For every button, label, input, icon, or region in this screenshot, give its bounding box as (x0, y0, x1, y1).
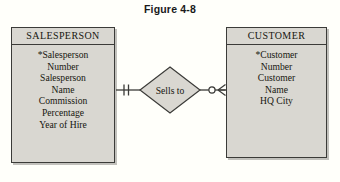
diagram-canvas: Figure 4-8 SALESPERSON *Salesperson Numb… (0, 0, 340, 182)
cardinality-many-crows-foot-icon (218, 85, 226, 96)
relationship-sells-to[interactable]: Sells to (139, 66, 201, 114)
diamond-shape-icon (139, 66, 201, 114)
cardinality-zero-circle-icon (209, 87, 215, 93)
